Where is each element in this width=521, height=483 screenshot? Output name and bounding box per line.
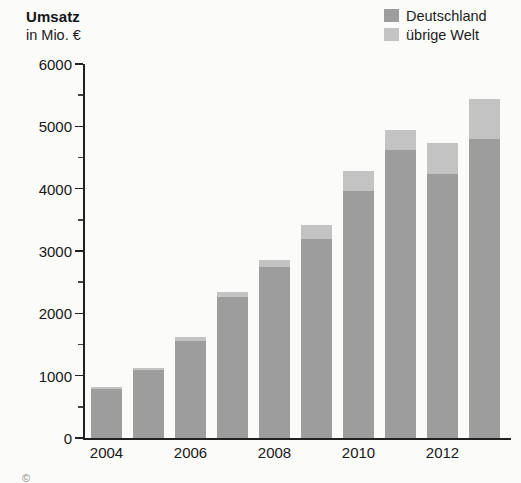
bar-2013 [469, 99, 500, 438]
bar-2008 [259, 260, 290, 438]
y-axis-tick-minor [78, 281, 83, 282]
bar-segment-deutschland-2011 [385, 150, 416, 438]
bar-segment-uebrige-welt-2009 [301, 225, 332, 239]
legend: Deutschland übrige Welt [384, 7, 487, 45]
bar-segment-deutschland-2004 [91, 389, 122, 438]
title-block: Umsatz in Mio. € [26, 8, 81, 45]
bar-2009 [301, 225, 332, 438]
bar-segment-deutschland-2007 [217, 297, 248, 438]
y-axis-tick-major [75, 437, 83, 439]
x-axis-line [83, 438, 511, 440]
bar-segment-deutschland-2013 [469, 139, 500, 438]
bar-segment-uebrige-welt-2010 [343, 171, 374, 191]
bar-segment-uebrige-welt-2011 [385, 130, 416, 150]
y-axis-tick-major [75, 375, 83, 377]
x-axis-tick-label-2006: 2006 [174, 444, 207, 461]
y-axis-tick-minor [78, 219, 83, 220]
y-axis-tick-label: 1000 [39, 367, 72, 384]
y-axis-tick-label: 6000 [39, 56, 72, 73]
bar-2006 [175, 337, 206, 438]
bar-2010 [343, 171, 374, 438]
bar-segment-deutschland-2008 [259, 267, 290, 438]
y-axis-labels: 0100020003000400050006000 [16, 60, 72, 442]
y-axis-tick-major [75, 313, 83, 315]
y-axis-tick-minor [78, 344, 83, 345]
y-axis-tick-major [75, 63, 83, 65]
bar-segment-uebrige-welt-2012 [427, 143, 458, 175]
legend-label-uebrige-welt: übrige Welt [406, 27, 479, 43]
legend-swatch-icon-deutschland [384, 9, 399, 22]
bar-2004 [91, 387, 122, 438]
bar-segment-deutschland-2010 [343, 191, 374, 438]
y-axis-tick-major [75, 188, 83, 190]
axis-unit-label: in Mio. € [26, 27, 81, 45]
y-axis-tick-major [75, 250, 83, 252]
y-axis-tick-minor [78, 406, 83, 407]
page-title: Umsatz [26, 8, 81, 26]
x-axis-tick-label-2010: 2010 [342, 444, 375, 461]
bar-chart: Umsatz in Mio. € Deutschland übrige Welt… [0, 0, 521, 483]
bar-2007 [217, 292, 248, 438]
legend-item-uebrige-welt: übrige Welt [384, 26, 487, 43]
y-axis-tick-label: 0 [64, 430, 72, 447]
x-axis-tick-label-2012: 2012 [426, 444, 459, 461]
legend-label-deutschland: Deutschland [406, 8, 487, 24]
bar-2012 [427, 143, 458, 438]
copyright-mark: © [22, 474, 31, 483]
plot-area [83, 60, 513, 442]
bar-2011 [385, 130, 416, 438]
y-axis-tick-major [75, 126, 83, 128]
y-axis-tick-label: 5000 [39, 118, 72, 135]
x-axis-labels: 20042006200820102012 [83, 444, 513, 470]
x-axis-tick-label-2008: 2008 [258, 444, 291, 461]
bar-segment-deutschland-2012 [427, 174, 458, 438]
y-axis-tick-label: 3000 [39, 243, 72, 260]
bar-segment-uebrige-welt-2008 [259, 260, 290, 267]
y-axis-tick-label: 2000 [39, 305, 72, 322]
legend-swatch-icon-uebrige-welt [384, 28, 399, 41]
bar-segment-uebrige-welt-2013 [469, 99, 500, 139]
y-axis-tick-minor [78, 157, 83, 158]
x-axis-tick-label-2004: 2004 [90, 444, 123, 461]
bar-segment-deutschland-2006 [175, 341, 206, 438]
bar-segment-deutschland-2005 [133, 370, 164, 438]
bar-2005 [133, 368, 164, 438]
bar-segment-deutschland-2009 [301, 239, 332, 438]
y-axis-tick-minor [78, 94, 83, 95]
y-axis-line [83, 64, 85, 438]
y-axis-tick-label: 4000 [39, 180, 72, 197]
legend-item-deutschland: Deutschland [384, 7, 487, 24]
